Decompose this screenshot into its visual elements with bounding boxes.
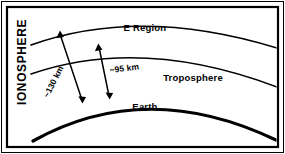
label-e-region: E Region bbox=[124, 22, 167, 33]
label-earth: Earth bbox=[132, 101, 157, 112]
ionosphere-diagram: E Region Troposphere Earth IONOSPHERE ~1… bbox=[0, 0, 285, 154]
label-troposphere: Troposphere bbox=[163, 72, 223, 83]
diagram-canvas: E Region Troposphere Earth IONOSPHERE ~1… bbox=[0, 0, 285, 154]
label-ionosphere: IONOSPHERE bbox=[15, 19, 29, 105]
